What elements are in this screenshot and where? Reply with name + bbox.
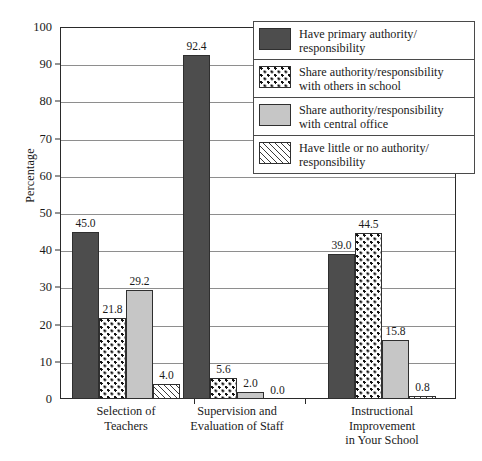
bar-value-label: 45.0	[66, 218, 106, 230]
gridline	[61, 288, 455, 289]
y-axis-tick-mark	[55, 175, 60, 176]
legend-item: Have little or no authority/ responsibil…	[254, 136, 474, 173]
y-axis-tick-mark	[55, 101, 60, 102]
y-axis-tick-label: 20	[6, 318, 52, 331]
bar-value-label: 44.5	[349, 219, 389, 231]
bar-value-label: 29.2	[120, 276, 160, 288]
legend: Have primary authority/ responsibilitySh…	[253, 21, 475, 174]
bar	[99, 318, 126, 399]
bar	[183, 55, 210, 399]
bar-chart: Percentage 0102030405060708090100 45.021…	[0, 0, 482, 461]
gridline	[61, 177, 455, 178]
legend-swatch	[259, 28, 291, 50]
category-label: Supervision and Evaluation of Staff	[167, 404, 307, 433]
y-axis-tick-label: 100	[6, 21, 52, 34]
y-axis-tick-mark	[55, 213, 60, 214]
y-axis-tick-label: 40	[6, 244, 52, 257]
bar-value-label: 0.0	[258, 385, 298, 397]
bar	[328, 254, 355, 399]
gridline	[61, 251, 455, 252]
bar-value-label: 92.4	[177, 41, 217, 53]
category-label: Instructional Improvement in Your School	[312, 404, 452, 448]
y-axis-tick-mark	[55, 361, 60, 362]
legend-label: Share authority/responsibility with othe…	[299, 64, 444, 93]
legend-item: Have primary authority/ responsibility	[254, 22, 474, 60]
y-axis-tick-label: 70	[6, 132, 52, 145]
legend-swatch	[259, 66, 291, 88]
y-axis-tick-mark	[55, 324, 60, 325]
y-axis-tick-label: 60	[6, 170, 52, 183]
y-axis-tick-mark	[55, 287, 60, 288]
legend-swatch	[259, 142, 291, 164]
bar	[126, 290, 153, 399]
legend-item: Share authority/responsibility with othe…	[254, 60, 474, 98]
bar-value-label: 5.6	[204, 364, 244, 376]
y-axis-tick-label: 90	[6, 58, 52, 71]
legend-item: Share authority/responsibility with cent…	[254, 98, 474, 136]
y-axis-tick-label: 50	[6, 207, 52, 220]
y-axis-tick-mark	[55, 250, 60, 251]
bar-value-label: 0.8	[403, 382, 443, 394]
legend-label: Have little or no authority/ responsibil…	[299, 140, 429, 169]
bar-value-label: 15.8	[376, 326, 416, 338]
legend-label: Share authority/responsibility with cent…	[299, 102, 444, 131]
y-axis-tick-label: 80	[6, 95, 52, 108]
bar	[355, 233, 382, 399]
y-axis-tick-label: 0	[6, 393, 52, 406]
gridline	[61, 214, 455, 215]
bar	[409, 396, 436, 399]
y-axis-tick-label: 30	[6, 281, 52, 294]
bar	[153, 384, 180, 399]
legend-label: Have primary authority/ responsibility	[299, 26, 417, 55]
y-axis-tick-mark	[55, 64, 60, 65]
legend-swatch	[259, 104, 291, 126]
bar-value-label: 4.0	[147, 370, 187, 382]
y-axis-tick-label: 10	[6, 356, 52, 369]
y-axis-tick-mark	[55, 138, 60, 139]
